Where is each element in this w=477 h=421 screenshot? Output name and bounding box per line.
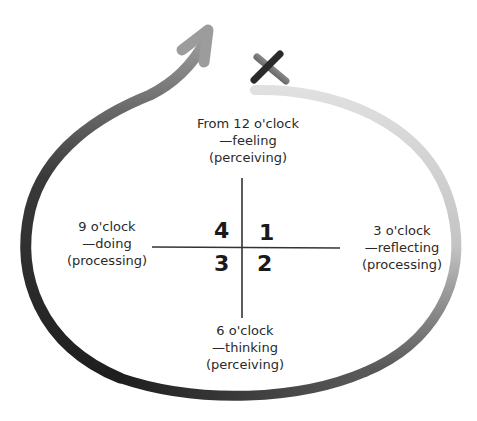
quadrant-4: 4 <box>214 218 229 243</box>
start-x-marker-icon <box>254 54 286 81</box>
loop-segment-bottom <box>120 372 365 396</box>
label-top-feeling: From 12 o'clock —feeling (perceiving) <box>168 115 328 166</box>
label-right-reflecting: 3 o'clock —reflecting (processing) <box>352 222 452 273</box>
quadrant-3: 3 <box>214 251 229 276</box>
quadrant-2: 2 <box>257 251 272 276</box>
label-left-doing: 9 o'clock —doing (processing) <box>52 218 162 269</box>
label-bottom-thinking: 6 o'clock —thinking (perceiving) <box>195 322 295 373</box>
loop-segment-left <box>26 42 205 378</box>
horizontal-axis <box>152 247 340 248</box>
quadrant-1: 1 <box>259 220 274 245</box>
learning-cycle-diagram: From 12 o'clock —feeling (perceiving) 9 … <box>0 0 477 421</box>
